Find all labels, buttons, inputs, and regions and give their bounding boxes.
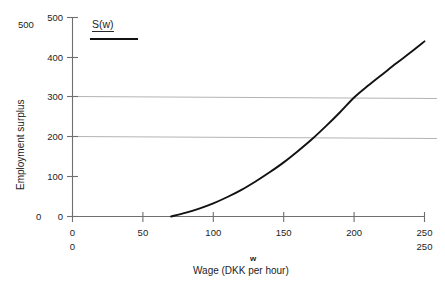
y-axis-title: Employment surplus bbox=[16, 99, 26, 190]
x-tick-label-row2-0: 0 bbox=[53, 242, 93, 252]
x-tick-label-250: 250 bbox=[405, 228, 445, 238]
y-tick-label-400: 400 bbox=[33, 53, 63, 63]
series-line-s-of-w bbox=[171, 41, 424, 216]
x-axis-symbol: w bbox=[250, 255, 256, 263]
x-tick-label-0: 0 bbox=[53, 228, 93, 238]
y-outer-label-top: 500 bbox=[18, 20, 34, 30]
y-tick-label-100: 100 bbox=[33, 172, 63, 182]
gridline-200 bbox=[72, 137, 437, 139]
gridline-300 bbox=[72, 97, 437, 99]
y-tick-label-200: 200 bbox=[33, 132, 63, 142]
x-tick-label-50: 50 bbox=[123, 228, 163, 238]
x-tick-label-150: 150 bbox=[264, 228, 304, 238]
legend-label-s-of-w[interactable]: S(w) bbox=[92, 19, 114, 32]
x-tick-label-200: 200 bbox=[334, 228, 374, 238]
y-tick-label-500: 500 bbox=[33, 13, 63, 23]
x-tick-label-row2-250: 250 bbox=[405, 242, 445, 252]
x-tick-label-100: 100 bbox=[193, 228, 233, 238]
legend-line-swatch bbox=[90, 38, 138, 40]
y-tick-label-0: 0 bbox=[33, 212, 63, 222]
y-tick-label-300: 300 bbox=[33, 92, 63, 102]
x-axis-title: Wage (DKK per hour) bbox=[193, 266, 289, 276]
chart-container: Employment surplus 500 0 500 400 300 200… bbox=[0, 0, 445, 288]
